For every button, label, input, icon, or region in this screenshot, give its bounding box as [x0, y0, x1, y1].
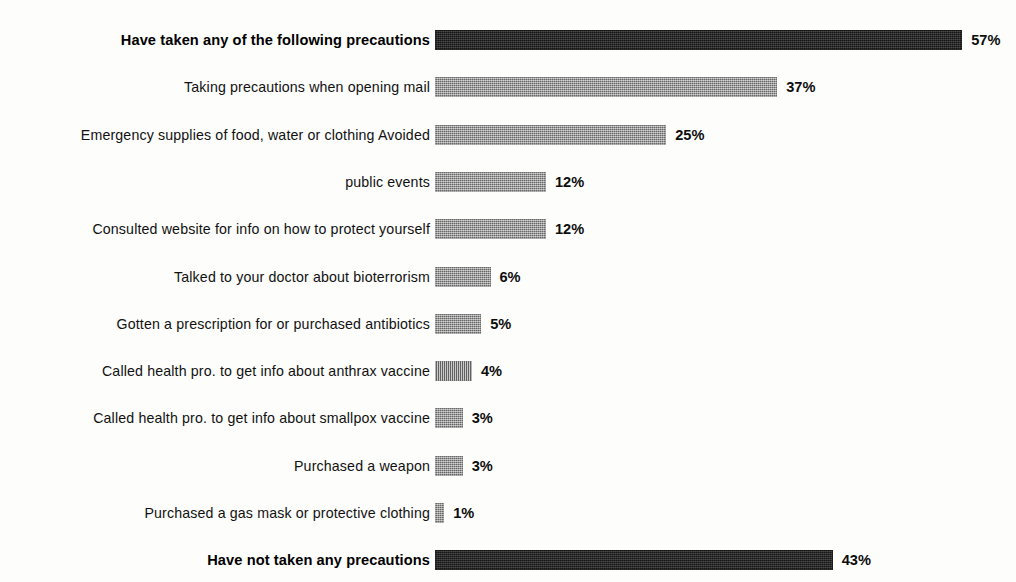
bar [435, 503, 444, 523]
bar-row: Talked to your doctor about bioterrorism… [0, 267, 1016, 287]
horizontal-bar-chart: Have taken any of the following precauti… [0, 0, 1016, 582]
bar-row: Purchased a weapon3% [0, 456, 1016, 476]
bar [435, 314, 481, 334]
bar-track: 6% [435, 267, 491, 287]
bar-track: 4% [435, 361, 472, 381]
bar [435, 550, 833, 570]
bar-category-label: Gotten a prescription for or purchased a… [5, 314, 430, 334]
bar-value-label: 5% [490, 314, 511, 334]
bar [435, 77, 777, 97]
bar-category-label: Called health pro. to get info about ant… [5, 361, 430, 381]
bar-row: Emergency supplies of food, water or clo… [0, 125, 1016, 145]
bar-category-label: Consulted website for info on how to pro… [5, 219, 430, 239]
bar-value-label: 25% [675, 125, 704, 145]
bar-category-label: Called health pro. to get info about sma… [5, 408, 430, 428]
bar-track: 57% [435, 30, 962, 50]
bar-row: Called health pro. to get info about sma… [0, 408, 1016, 428]
bar [435, 408, 463, 428]
bar-category-label: public events [5, 172, 430, 192]
bar [435, 172, 546, 192]
bar-row: Purchased a gas mask or protective cloth… [0, 503, 1016, 523]
bar [435, 361, 472, 381]
bar-value-label: 6% [500, 267, 521, 287]
bar-value-label: 37% [786, 77, 815, 97]
bar-value-label: 4% [481, 361, 502, 381]
bar [435, 456, 463, 476]
bar-value-label: 3% [472, 456, 493, 476]
bar-value-label: 3% [472, 408, 493, 428]
bar-track: 1% [435, 503, 444, 523]
bar-row: Have taken any of the following precauti… [0, 30, 1016, 50]
bar-row: Called health pro. to get info about ant… [0, 361, 1016, 381]
bar-row: Have not taken any precautions43% [0, 550, 1016, 570]
bar-track: 37% [435, 77, 777, 97]
bar-track: 3% [435, 456, 463, 476]
bar-category-label: Have not taken any precautions [5, 550, 430, 570]
bar-row: Consulted website for info on how to pro… [0, 219, 1016, 239]
bar-track: 3% [435, 408, 463, 428]
bar-category-label: Purchased a gas mask or protective cloth… [5, 503, 430, 523]
bar [435, 219, 546, 239]
bar-category-label: Emergency supplies of food, water or clo… [5, 125, 430, 145]
bar-value-label: 12% [555, 219, 584, 239]
bar-row: public events12% [0, 172, 1016, 192]
bar-track: 12% [435, 219, 546, 239]
bar-track: 5% [435, 314, 481, 334]
bar [435, 30, 962, 50]
bar-category-label: Talked to your doctor about bioterrorism [5, 267, 430, 287]
bar-value-label: 1% [453, 503, 474, 523]
bar-value-label: 43% [842, 550, 871, 570]
bar-row: Taking precautions when opening mail37% [0, 77, 1016, 97]
bar [435, 267, 491, 287]
bar-value-label: 57% [971, 30, 1000, 50]
bar-category-label: Have taken any of the following precauti… [5, 30, 430, 50]
bar [435, 125, 666, 145]
bar-track: 25% [435, 125, 666, 145]
bar-track: 12% [435, 172, 546, 192]
bar-category-label: Purchased a weapon [5, 456, 430, 476]
bar-track: 43% [435, 550, 833, 570]
bar-row: Gotten a prescription for or purchased a… [0, 314, 1016, 334]
bar-value-label: 12% [555, 172, 584, 192]
bar-category-label: Taking precautions when opening mail [5, 77, 430, 97]
